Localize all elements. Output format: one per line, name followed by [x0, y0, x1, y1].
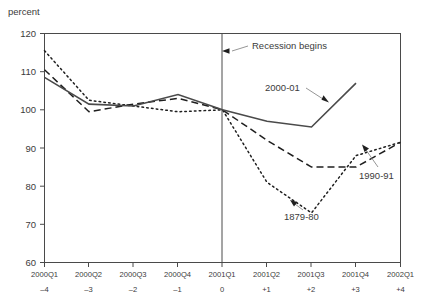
x-tick-label-period-4: 2001Q1: [208, 270, 235, 279]
s2000-arrow-head: [322, 95, 330, 102]
chart-figure: percent 120 110 100 90 80 70 60: [0, 0, 423, 304]
x-tick-label-period-2: 2000Q3: [119, 270, 146, 279]
x-axis-ticks: 2000Q1 2000Q2 2000Q3 2000Q4 2001Q1 2001Q…: [31, 263, 414, 295]
x-tick-label-offset-6: +2: [307, 285, 316, 294]
line-chart: percent 120 110 100 90 80 70 60: [0, 0, 423, 304]
x-tick-label-period-3: 2000Q4: [164, 270, 191, 279]
x-tick-label-offset-2: –2: [129, 285, 137, 294]
x-tick-label-period-0: 2000Q1: [31, 270, 58, 279]
s1990-annotation-label: 1990-91: [359, 170, 394, 181]
s1879-annotation-label: 1879-80: [284, 211, 319, 222]
x-tick-label-period-5: 2001Q2: [253, 270, 280, 279]
y-tick-label-80: 80: [25, 181, 36, 192]
recession-annotation-label: Recession begins: [252, 40, 327, 51]
recession-leader-line: [232, 46, 248, 51]
x-tick-label-period-7: 2001Q4: [342, 270, 369, 279]
x-tick-label-period-6: 2001Q3: [297, 270, 324, 279]
y-tick-label-70: 70: [25, 219, 36, 230]
x-tick-label-offset-1: –3: [84, 285, 92, 294]
x-tick-label-period-8: 2002Q1: [387, 270, 414, 279]
s2000-leader-line: [306, 88, 323, 99]
s2000-annotation-label: 2000-01: [265, 82, 300, 93]
y-axis-ticks: 120 110 100 90 80 70 60: [20, 28, 44, 268]
y-tick-label-90: 90: [25, 143, 36, 154]
x-tick-label-offset-7: +3: [351, 285, 360, 294]
s1990-leader-line: [366, 150, 378, 167]
y-axis-title: percent: [8, 6, 40, 17]
s1879-leader-line: [295, 204, 303, 210]
annotation-recession-begins: Recession begins: [222, 40, 327, 54]
x-tick-label-offset-5: +1: [262, 285, 271, 294]
x-tick-label-period-1: 2000Q2: [75, 270, 102, 279]
y-tick-label-120: 120: [20, 28, 36, 39]
x-tick-label-offset-8: +4: [396, 285, 405, 294]
y-tick-label-110: 110: [21, 66, 36, 77]
y-tick-label-60: 60: [25, 257, 36, 268]
x-tick-label-offset-3: –1: [173, 285, 181, 294]
recession-arrow-head: [222, 48, 230, 54]
x-tick-label-offset-4: 0: [220, 285, 224, 294]
s1990-arrow-head: [362, 145, 369, 153]
annotation-series-1879-80: 1879-80: [284, 200, 319, 222]
y-tick-label-100: 100: [20, 104, 36, 115]
x-tick-label-offset-0: –4: [40, 285, 48, 294]
series-line-2000-01: [45, 77, 357, 127]
annotation-series-2000-01: 2000-01: [265, 82, 329, 103]
